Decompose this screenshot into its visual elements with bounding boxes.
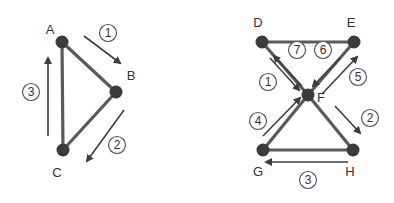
step-badge: 4 <box>250 113 267 130</box>
node-d <box>256 36 269 49</box>
graph-traversal-diagram: 123ABC 1234567DEFGH <box>0 0 394 203</box>
step-number: 3 <box>28 85 35 99</box>
node-g <box>257 144 270 157</box>
step-arrow-icon <box>335 106 360 133</box>
node-label-b: B <box>127 68 136 83</box>
step-number: 2 <box>114 138 121 152</box>
step-number: 1 <box>105 26 112 40</box>
node-label-f: F <box>317 90 325 105</box>
step-badge: 6 <box>315 42 332 59</box>
step-arrow-icon <box>84 36 120 63</box>
step-badge: 7 <box>289 42 306 59</box>
node-f <box>302 89 315 102</box>
node-label-d: D <box>253 15 262 30</box>
step-arrow-icon <box>274 56 302 86</box>
step-number: 2 <box>367 111 374 125</box>
step-number: 6 <box>320 43 327 57</box>
node-label-g: G <box>253 164 263 179</box>
node-b <box>110 86 123 99</box>
node-label-e: E <box>347 15 356 30</box>
edge-a-b <box>62 42 116 92</box>
step-badge: 3 <box>300 172 317 189</box>
node-label-a: A <box>46 22 55 37</box>
step-arrow-icon <box>263 98 300 136</box>
edge-f-h <box>308 95 353 150</box>
step-arrow-icon <box>313 58 340 86</box>
step-number: 4 <box>255 114 262 128</box>
step-badge: 3 <box>23 84 40 101</box>
step-badge: 1 <box>100 25 117 42</box>
step-number: 1 <box>265 75 272 89</box>
node-a <box>56 36 69 49</box>
edge-a-c <box>62 42 63 150</box>
step-badge: 2 <box>109 137 126 154</box>
node-h <box>347 144 360 157</box>
node-c <box>57 144 70 157</box>
step-badge: 5 <box>350 69 367 86</box>
triangle-graph-abc: 123ABC <box>23 22 136 180</box>
step-number: 7 <box>294 43 301 57</box>
node-label-h: H <box>345 164 354 179</box>
node-label-c: C <box>52 165 61 180</box>
edge-b-c <box>63 92 116 150</box>
step-number: 3 <box>305 173 312 187</box>
node-e <box>348 36 361 49</box>
step-badge: 1 <box>260 74 277 91</box>
hourglass-graph-defgh: 1234567DEFGH <box>250 15 379 189</box>
step-number: 5 <box>355 70 362 84</box>
edge-f-g <box>263 95 308 150</box>
step-badge: 2 <box>362 110 379 127</box>
